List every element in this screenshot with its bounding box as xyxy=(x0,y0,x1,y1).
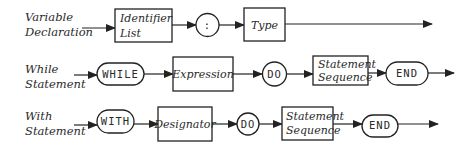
terminal-colon: : xyxy=(196,14,219,37)
label-line: Statement xyxy=(25,124,86,138)
terminal-text: : xyxy=(204,19,211,31)
label-line: While xyxy=(25,62,59,76)
terminal-text: END xyxy=(396,67,418,79)
row-with-statement: With Statement WITH Designator DO Statem… xyxy=(25,107,438,141)
terminal-text: WITH xyxy=(101,115,130,127)
terminal-end: END xyxy=(362,115,398,137)
terminal-text: END xyxy=(369,119,391,131)
box-line: Expression xyxy=(171,68,234,81)
row-label-with-statement: With Statement xyxy=(25,109,86,138)
row-label-while-statement: While Statement xyxy=(25,62,86,91)
label-line: Variable xyxy=(25,10,73,24)
box-line: List xyxy=(119,27,141,40)
row-variable-declaration: Variable Declaration Identifier List : T… xyxy=(24,8,432,42)
box-line: Identifier xyxy=(119,12,173,25)
terminal-do: DO xyxy=(263,62,287,86)
terminal-while: WHILE xyxy=(97,63,144,85)
terminal-with: WITH xyxy=(97,110,134,133)
terminal-text: WHILE xyxy=(102,68,139,80)
nonterminal-identifier-list: Identifier List xyxy=(115,9,173,42)
nonterminal-type: Type xyxy=(244,8,285,41)
nonterminal-expression: Expression xyxy=(171,57,234,91)
box-line: Statement xyxy=(286,110,344,123)
label-line: Statement xyxy=(25,77,86,91)
row-label-variable-declaration: Variable Declaration xyxy=(24,10,93,39)
box-line: Statement xyxy=(318,58,376,71)
terminal-text: DO xyxy=(267,68,282,80)
box-line: Type xyxy=(251,19,279,32)
box-line: Sequence xyxy=(318,71,373,84)
box-line: Sequence xyxy=(286,124,341,137)
row-while-statement: While Statement WHILE Expression DO Stat… xyxy=(25,56,454,91)
box-line: Designator xyxy=(153,118,216,131)
terminal-end: END xyxy=(386,62,428,85)
nonterminal-statement-sequence: Statement Sequence xyxy=(313,56,376,85)
label-line: With xyxy=(25,109,52,123)
nonterminal-designator: Designator xyxy=(153,107,216,141)
syntax-diagram: Variable Declaration Identifier List : T… xyxy=(0,0,475,149)
label-line: Declaration xyxy=(24,25,93,39)
terminal-do: DO xyxy=(237,113,259,135)
terminal-text: DO xyxy=(241,118,256,130)
